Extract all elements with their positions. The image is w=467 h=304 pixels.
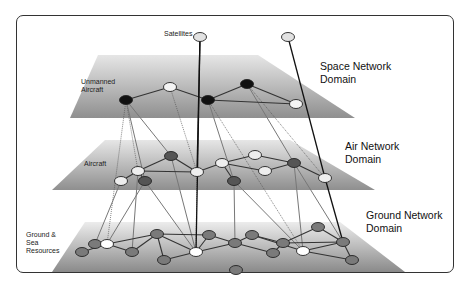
aircraft-node [139,177,152,186]
ground-node [229,239,242,248]
ground-node [203,231,216,240]
uav-node [241,80,254,89]
ground-node [267,249,280,258]
aircraft-node [115,177,128,186]
aircraft-node [165,152,178,161]
ground-node [101,240,114,249]
aircraft-node [319,174,332,183]
unmanned-aircraft-label: Unmanned Aircraft [81,78,115,94]
ground-node [337,238,350,247]
satellites-label: Satellites [164,30,192,38]
ground-node [312,223,325,232]
ground-node [346,256,359,265]
uav-node [120,96,133,105]
aircraft-node [132,167,145,176]
aircraft-node [216,159,229,168]
ground-node [246,231,259,240]
ground-node [297,247,310,256]
uav-node [202,96,215,105]
ground-sea-label: Ground & Sea Resources [26,231,59,255]
ground-node [126,248,139,257]
aircraft-node [191,168,204,177]
ground-domain-label: Ground Network Domain [366,209,442,235]
ground-node [190,248,203,257]
uav-node [164,83,177,92]
ground-node [158,256,171,265]
aircraft-node [228,177,241,186]
ground-node [230,266,243,275]
aircraft-label: Aircraft [84,160,106,168]
ground-node [277,239,290,248]
uav-node [290,100,303,109]
satellite-node [194,33,207,42]
space-domain-label: Space Network Domain [320,60,391,86]
aircraft-node [288,159,301,168]
ground-node [151,230,164,239]
ground-node [89,240,102,249]
ground-node [76,248,89,257]
aircraft-node [249,151,262,160]
aircraft-node [259,167,272,176]
air-domain-label: Air Network Domain [345,140,399,166]
satellite-node [282,33,295,42]
